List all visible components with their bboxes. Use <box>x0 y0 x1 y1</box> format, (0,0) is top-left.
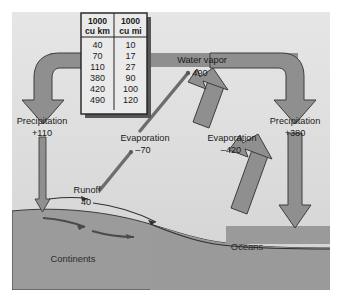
table-col-0-line2: cu km <box>85 26 110 36</box>
table-col-1-line1: 1000 <box>121 16 140 26</box>
evaporation-left-label: Evaporation <box>120 133 169 143</box>
table-row: 40 <box>92 40 102 50</box>
evaporation-right-label: Evaporation <box>207 133 256 143</box>
precipitation-right-value: +380 <box>285 128 306 138</box>
water-vapor-value: 490 <box>192 68 207 78</box>
table-row: 70 <box>92 51 102 61</box>
table-row: 380 <box>90 73 105 83</box>
runoff-label: Runoff <box>74 185 101 195</box>
evaporation-land-line-lower-cap <box>129 150 133 154</box>
table-row: 10 <box>125 40 135 50</box>
precipitation-left-label: Precipitation <box>17 116 68 126</box>
table-row: 27 <box>125 62 135 72</box>
table-row: 90 <box>125 73 135 83</box>
table-col-0-line1: 1000 <box>88 16 107 26</box>
continents-label: Continents <box>51 253 96 264</box>
table-row: 110 <box>90 62 104 72</box>
table-row: 100 <box>123 84 138 94</box>
table-row: 120 <box>123 95 138 105</box>
evaporation-land-line-upper-cap <box>186 71 190 75</box>
evaporation-left-value: –70 <box>135 145 150 155</box>
runoff-value: 40 <box>81 197 91 207</box>
table-row: 490 <box>90 95 105 105</box>
precipitation-right-label: Precipitation <box>270 116 321 126</box>
water-vapor-label: Water vapor <box>177 55 227 65</box>
table-row: 420 <box>90 84 105 94</box>
table-col-1-line2: cu mi <box>119 26 141 36</box>
evaporation-right-value: –420 <box>221 145 241 155</box>
diagram-canvas: 1000 cu km 1000 cu mi 40 10 70 17 110 27… <box>0 0 342 302</box>
oceans-label: Oceans <box>231 241 264 252</box>
precipitation-left-value: +110 <box>32 128 52 138</box>
water-cycle-figure: 1000 cu km 1000 cu mi 40 10 70 17 110 27… <box>0 0 342 302</box>
table-row: 17 <box>125 51 135 61</box>
